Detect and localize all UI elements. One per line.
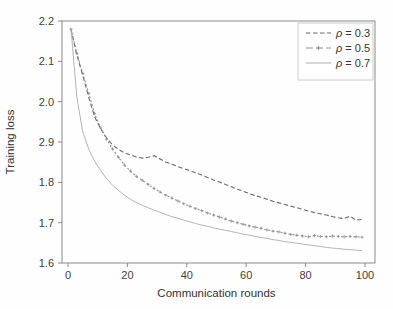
legend-entry-label: ρ = 0.3 bbox=[335, 27, 370, 39]
x-axis-tick-label: 0 bbox=[65, 269, 71, 281]
y-axis-tick-label: 1.6 bbox=[39, 257, 54, 269]
x-axis-tick-label: 20 bbox=[121, 269, 133, 281]
x-axis-tick-label: 40 bbox=[181, 269, 193, 281]
training-loss-figure: 2.22.12.02.91.81.71.6020406080100Communi… bbox=[0, 0, 393, 309]
x-axis-tick-label: 80 bbox=[299, 269, 311, 281]
y-axis-tick-label: 1.8 bbox=[39, 176, 54, 188]
y-axis-title: Training loss bbox=[4, 109, 16, 174]
x-axis-tick-label: 60 bbox=[240, 269, 252, 281]
legend-entry-label: ρ = 0.7 bbox=[335, 57, 370, 69]
y-axis-tick-label: 2.9 bbox=[39, 136, 54, 148]
y-axis-tick-label: 2.2 bbox=[39, 15, 54, 27]
y-axis-tick-label: 2.0 bbox=[39, 96, 54, 108]
legend-entry-label: ρ = 0.5 bbox=[335, 42, 370, 54]
training-loss-chart: 2.22.12.02.91.81.71.6020406080100Communi… bbox=[0, 0, 393, 309]
x-axis-tick-label: 100 bbox=[356, 269, 374, 281]
y-axis-tick-label: 1.7 bbox=[39, 217, 54, 229]
y-axis-tick-label: 2.1 bbox=[39, 55, 54, 67]
x-axis-title: Communication rounds bbox=[157, 287, 276, 299]
